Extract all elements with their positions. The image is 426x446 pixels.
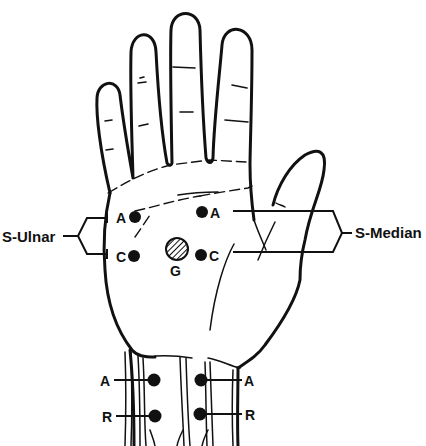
ulnar-c-label: C bbox=[116, 249, 126, 265]
s-median-label: S-Median bbox=[355, 224, 422, 241]
median-a-label: A bbox=[210, 205, 220, 221]
wrist-left-r-electrode bbox=[149, 410, 162, 423]
s-ulnar-label: S-Ulnar bbox=[2, 228, 56, 245]
hand-outline bbox=[97, 14, 325, 446]
median-c-label: C bbox=[209, 248, 219, 264]
ulnar-c-electrode bbox=[128, 250, 140, 262]
ulnar-a-electrode bbox=[129, 211, 141, 223]
wrist-right-r-electrode bbox=[194, 408, 207, 421]
ulnar-a-label: A bbox=[116, 210, 126, 226]
wrist-left-r-label: R bbox=[102, 409, 112, 425]
median-a-electrode bbox=[196, 206, 208, 218]
ulnar-leads bbox=[63, 213, 107, 259]
median-leads bbox=[233, 211, 352, 252]
median-c-electrode bbox=[195, 249, 207, 261]
wrist-left-a-electrode bbox=[148, 374, 161, 387]
wrist-right-a-electrode bbox=[195, 374, 208, 387]
ground-label: G bbox=[170, 263, 181, 279]
hand-diagram: S-Ulnar A C A C S-Median G A R A R bbox=[0, 0, 426, 446]
ground-electrode bbox=[166, 238, 188, 260]
wrist-left-a-label: A bbox=[100, 373, 110, 389]
wrist-right-a-label: A bbox=[244, 373, 254, 389]
wrist-right-r-label: R bbox=[245, 407, 255, 423]
